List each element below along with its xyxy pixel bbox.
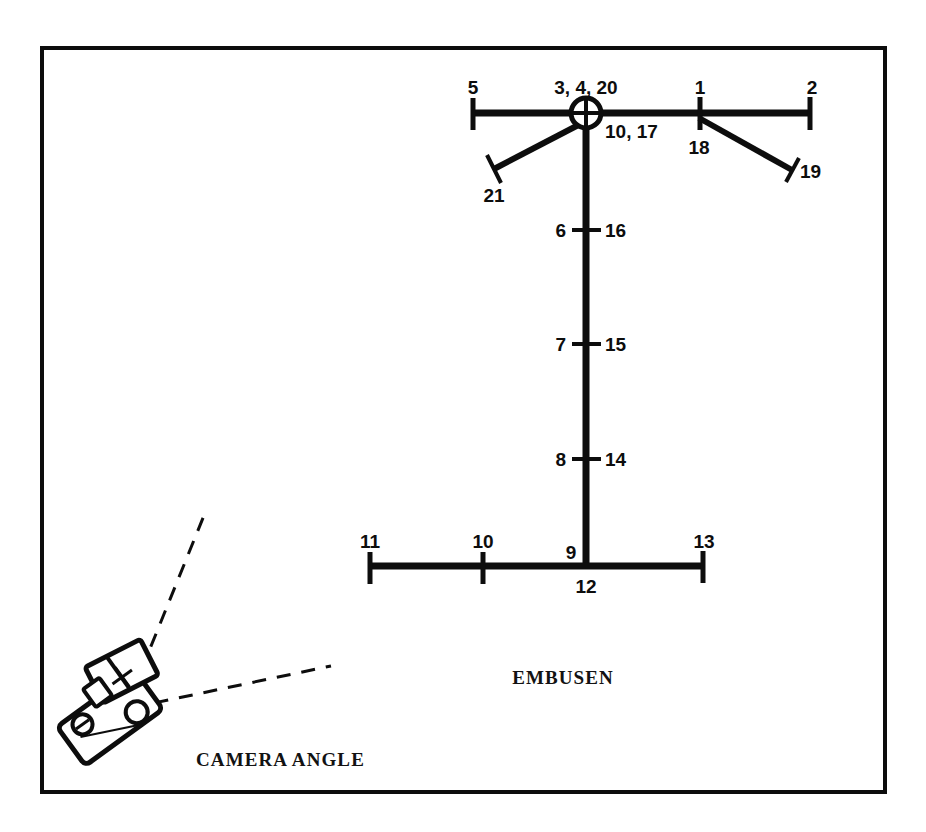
label-point-6: 6 xyxy=(555,220,566,241)
label-point-7: 7 xyxy=(555,334,566,355)
label-center-above: 3, 4, 20 xyxy=(554,77,617,98)
label-point-16: 16 xyxy=(605,220,626,241)
camera-angle-caption: CAMERA ANGLE xyxy=(196,749,365,770)
label-point-2: 2 xyxy=(807,77,818,98)
label-point-11: 11 xyxy=(360,531,381,552)
label-point-10: 10 xyxy=(472,531,493,552)
label-point-14: 14 xyxy=(605,449,627,470)
label-point-19: 19 xyxy=(800,161,821,182)
embusen-caption: EMBUSEN xyxy=(512,667,614,688)
label-point-1: 1 xyxy=(695,77,706,98)
figure-svg: 5 2 1 18 3, 4, 20 10, 17 21 19 6 16 7 15… xyxy=(0,0,926,832)
label-center-right: 10, 17 xyxy=(605,121,658,142)
label-point-8: 8 xyxy=(555,449,566,470)
label-point-5: 5 xyxy=(468,77,479,98)
label-point-18: 18 xyxy=(688,137,709,158)
label-point-21: 21 xyxy=(483,185,505,206)
label-point-13: 13 xyxy=(693,531,714,552)
label-point-12: 12 xyxy=(575,576,596,597)
label-point-9: 9 xyxy=(566,542,577,563)
figure-root: 5 2 1 18 3, 4, 20 10, 17 21 19 6 16 7 15… xyxy=(0,0,926,832)
label-point-15: 15 xyxy=(605,334,627,355)
figure-frame xyxy=(42,48,885,792)
